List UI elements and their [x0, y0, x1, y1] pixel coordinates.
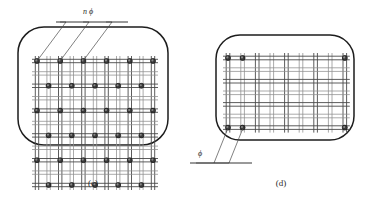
rebar-dot-highlight [70, 84, 72, 86]
rebar-dot-highlight [343, 126, 345, 128]
rebar-dot-highlight [226, 126, 228, 128]
rebar-dot-highlight [226, 56, 228, 58]
bar-size-label-c: n ϕ [83, 7, 93, 16]
rebar-dot-highlight [128, 109, 130, 111]
rebar-dot-highlight [59, 159, 61, 161]
rebar-dot-highlight [70, 183, 72, 185]
rebar-dot-highlight [82, 109, 84, 111]
rebar-dot-highlight [128, 159, 130, 161]
rebar-dot-highlight [117, 134, 119, 136]
rebar-dot-highlight [47, 84, 49, 86]
panel-caption-d: (d) [276, 178, 287, 188]
rebar-dot-highlight [82, 159, 84, 161]
rebar-dot-highlight [140, 134, 142, 136]
rebar-dot-highlight [105, 59, 107, 61]
rebar-dot-highlight [151, 59, 153, 61]
rebar-dot-highlight [128, 59, 130, 61]
rebar-dot-highlight [140, 183, 142, 185]
rebar-dot-highlight [241, 126, 243, 128]
rebar-dot-highlight [140, 84, 142, 86]
rebar-dot-highlight [117, 183, 119, 185]
rebar-dot-highlight [105, 109, 107, 111]
rebar-dot-highlight [241, 56, 243, 58]
rebar-dot-highlight [47, 134, 49, 136]
reinforcement-section-figure: n ϕ(c) ϕ(d) [0, 0, 374, 200]
rebar-dot-highlight [93, 84, 95, 86]
rebar-dot-highlight [47, 183, 49, 185]
rebar-dot-highlight [117, 84, 119, 86]
rebar-dot-highlight [151, 159, 153, 161]
rebar-dot-highlight [343, 56, 345, 58]
rebar-dot-highlight [35, 109, 37, 111]
panel-d: ϕ(d) [190, 35, 354, 188]
rebar-dot-highlight [105, 159, 107, 161]
rebar-dot-highlight [59, 109, 61, 111]
panel-c: n ϕ(c) [18, 7, 168, 190]
rebar-dot-highlight [70, 134, 72, 136]
figure-root: n ϕ(c) ϕ(d) [0, 0, 374, 200]
rebar-dot-highlight [151, 109, 153, 111]
bar-size-label-d: ϕ [198, 149, 202, 158]
panel-caption-c: (c) [88, 178, 98, 188]
rebar-dot-highlight [35, 159, 37, 161]
rebar-dot-highlight [93, 134, 95, 136]
